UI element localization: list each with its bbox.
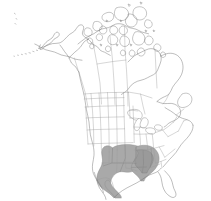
united-states-region <box>79 72 193 199</box>
newfoundland-outline <box>178 93 192 107</box>
north-america-map <box>0 0 211 201</box>
range-shading-group <box>97 144 159 198</box>
canada-north-coast-outline <box>78 24 149 44</box>
bering-islands <box>14 13 17 25</box>
alaska-mainland-outline <box>39 32 59 49</box>
us-northeast-coast-outline <box>165 108 193 126</box>
distribution-map-figure: North America distribution map Outline m… <box>0 0 211 201</box>
lake-ontario <box>154 125 162 130</box>
florida-peninsula-outline <box>158 171 176 198</box>
canada-province-borders <box>74 27 169 114</box>
us-west-coast-outline <box>79 72 97 180</box>
canada-mainland-outline <box>69 39 88 58</box>
aleutian-islands <box>14 49 42 56</box>
alaska-region <box>14 13 111 72</box>
lake-huron <box>140 118 148 128</box>
canada-region <box>69 2 192 127</box>
lake-erie <box>146 128 156 134</box>
alaska-panhandle-outline <box>60 45 79 72</box>
us-state-borders <box>84 92 187 172</box>
